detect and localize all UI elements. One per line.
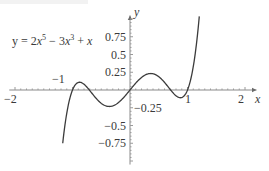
- equation-lhs: y = 2: [12, 34, 37, 48]
- y-tick-label: 0.5: [111, 48, 126, 62]
- eq-op: − 3: [46, 34, 65, 48]
- equation-label: y = 2x5 − 3x3 + x: [12, 33, 93, 48]
- y-tick-label: 0.75: [105, 30, 126, 44]
- eq-op: +: [74, 34, 87, 48]
- x-tick-label: −2: [4, 92, 17, 106]
- y-axis-label: y: [133, 5, 140, 19]
- x-axis-label: x: [254, 92, 261, 106]
- y-tick-label: −0.75: [98, 136, 126, 150]
- y-tick-label: −0.5: [104, 119, 126, 133]
- x-tick-label: 1: [185, 92, 191, 106]
- function-plot: −2−1120.750.50.25−0.25−0.5−0.75 x y y = …: [0, 0, 269, 171]
- eq-var: x: [86, 34, 93, 48]
- x-tick-label: −1: [52, 72, 65, 86]
- y-tick-label: −0.25: [134, 101, 162, 115]
- x-tick-label: 2: [238, 92, 244, 106]
- y-tick-label: 0.25: [105, 65, 126, 79]
